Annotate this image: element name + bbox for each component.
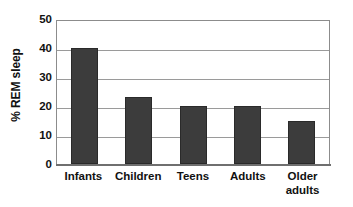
y-axis-title-text: % REM sleep [9, 48, 23, 122]
bar-slot [275, 21, 329, 164]
bar-slot [111, 21, 165, 164]
y-tick-label: 50 [26, 14, 52, 26]
bar[interactable] [125, 97, 152, 164]
x-tick-label: Children [111, 170, 166, 184]
x-tick-label: Adults [220, 170, 275, 184]
x-tick-label: Infants [56, 170, 111, 184]
x-tick-slot: Older adults [275, 170, 330, 197]
y-tick-label: 0 [26, 159, 52, 171]
bar-slot [166, 21, 220, 164]
x-tick-slot: Infants [56, 170, 111, 197]
y-axis-title: % REM sleep [6, 0, 26, 170]
y-tick-label: 30 [26, 72, 52, 84]
bar[interactable] [288, 121, 315, 165]
x-tick-slot: Adults [220, 170, 275, 197]
x-tick-label: Older adults [275, 170, 330, 197]
y-tick-label: 40 [26, 43, 52, 55]
bar[interactable] [234, 106, 261, 164]
bars-layer [57, 21, 329, 164]
x-axis-baseline [56, 164, 331, 166]
bar-slot [220, 21, 274, 164]
y-tick-label: 10 [26, 130, 52, 142]
bar-slot [57, 21, 111, 164]
x-tick-label: Teens [166, 170, 221, 184]
y-tick-label: 20 [26, 101, 52, 113]
plot-area [56, 20, 330, 165]
x-tick-slot: Teens [166, 170, 221, 197]
x-axis-tick-labels: InfantsChildrenTeensAdultsOlder adults [56, 170, 330, 197]
bar[interactable] [180, 106, 207, 164]
rem-sleep-bar-chart: % REM sleep 01020304050 InfantsChildrenT… [0, 0, 353, 207]
bar[interactable] [71, 48, 98, 164]
y-axis-tick-labels: 01020304050 [26, 20, 52, 165]
x-tick-slot: Children [111, 170, 166, 197]
